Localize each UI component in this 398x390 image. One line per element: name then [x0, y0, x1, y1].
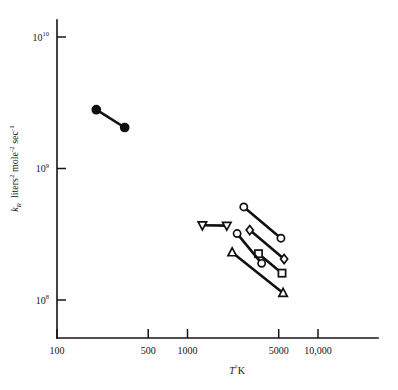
- x-axis-title: T°K: [229, 364, 245, 376]
- data-point-circle: [234, 230, 241, 237]
- x-tick-label: 100: [50, 345, 65, 356]
- chart-figure: 10810910101005001000500010,000 T°KkR lit…: [0, 0, 398, 390]
- data-point-down-triangle: [223, 222, 231, 230]
- x-tick-label: 1000: [178, 345, 198, 356]
- data-series: [92, 106, 287, 297]
- x-tick-label: 500: [141, 345, 156, 356]
- data-point-circle: [277, 235, 284, 242]
- data-point-square: [278, 270, 285, 277]
- x-tick-label: 10,000: [304, 345, 332, 356]
- scatter-plot: 10810910101005001000500010,000 T°KkR lit…: [0, 0, 398, 390]
- axis-tick-labels: 10810910101005001000500010,000: [33, 30, 332, 356]
- data-point-down-triangle: [198, 222, 206, 230]
- series-filled-circle-series: [92, 106, 128, 132]
- series-diamond-series: [246, 226, 288, 264]
- x-tick-label: 5000: [269, 345, 289, 356]
- series-down-triangle-series: [198, 222, 231, 230]
- y-tick-label: 109: [36, 162, 49, 174]
- data-point-circle: [258, 260, 265, 267]
- y-axis-title: kR liters2 mole-2 sec-1: [8, 125, 22, 212]
- y-tick-label: 108: [36, 293, 49, 305]
- data-point-filled-circle: [92, 106, 100, 114]
- y-tick-label: 1010: [33, 30, 50, 42]
- series-connector-line: [96, 110, 124, 128]
- axes: [57, 20, 378, 338]
- axis-ticks: [57, 37, 318, 338]
- data-point-circle: [240, 203, 247, 210]
- series-circle-series: [240, 203, 284, 241]
- data-point-up-triangle: [228, 248, 236, 256]
- data-point-filled-circle: [121, 124, 129, 132]
